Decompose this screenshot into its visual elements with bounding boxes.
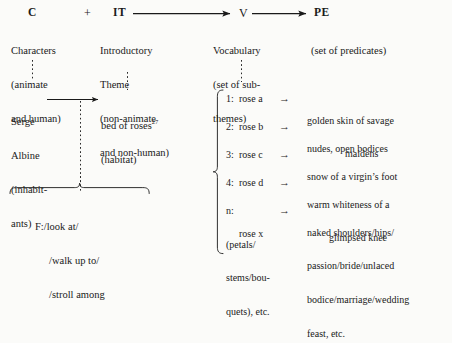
function-box-brace: [10, 183, 149, 193]
predicate-n-line-4: feast, etc.: [307, 328, 409, 339]
vocabulary-list-brace: [213, 90, 223, 254]
term-n-extra-line-3: quets), etc.: [226, 306, 270, 317]
predicate-n-line-3: bodice/marriage/wedding: [307, 294, 409, 305]
term-n-extra-line-2: stems/bou-: [226, 272, 270, 283]
function-line-3: /stroll among: [35, 289, 105, 300]
